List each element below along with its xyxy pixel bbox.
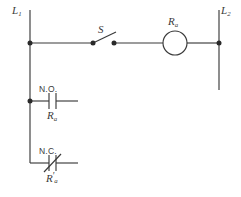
schematic-canvas: L1 L2 S Ra N.O. Ra N.C. R′a [0,0,241,197]
left-rail-label: L1 [12,5,22,17]
switch-terminal-right-dot [112,41,117,46]
relay-coil-circle [163,31,187,55]
no-contact-name-label: Ra [47,110,57,122]
junction-dot-no-rung [28,99,33,104]
relay-ladder-schematic [0,0,241,197]
junction-dot-right-rail [217,41,222,46]
no-contact-type-label: N.O. [39,85,57,94]
junction-dot-top-rung [28,41,33,46]
right-rail-label: L2 [221,5,231,17]
switch-terminal-left-dot [91,41,96,46]
switch-label: S [98,24,104,35]
nc-contact-type-label: N.C. [39,147,57,156]
nc-contact-name-label: R′a [46,172,58,185]
relay-coil-label: Ra [168,16,178,28]
